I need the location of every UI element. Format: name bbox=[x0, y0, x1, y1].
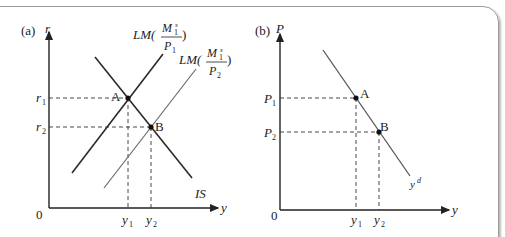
r2-tick-label: r 2 bbox=[36, 119, 46, 136]
svg-text:y: y bbox=[144, 212, 152, 227]
y-axis-label-a: y bbox=[219, 200, 227, 215]
svg-text:P: P bbox=[163, 39, 172, 53]
panel-b: (b) P 0 y A B y d P 1 P 2 y 1 y bbox=[255, 21, 458, 229]
point-a-dot-b bbox=[353, 95, 358, 100]
point-a-dot bbox=[125, 95, 130, 100]
panel-b-label: (b) bbox=[255, 23, 270, 38]
r-axis-label: r bbox=[45, 21, 51, 36]
p2-tick-label: P 2 bbox=[263, 125, 276, 142]
svg-text:2: 2 bbox=[153, 220, 157, 229]
svg-text:1: 1 bbox=[272, 99, 276, 108]
y1-tick-label-b: y 1 bbox=[349, 212, 362, 229]
svg-text:d: d bbox=[417, 176, 422, 185]
r1-tick-label: r 1 bbox=[36, 90, 46, 107]
is-label: IS bbox=[194, 186, 206, 201]
origin-label-b: 0 bbox=[271, 208, 278, 223]
svg-text:y: y bbox=[120, 212, 128, 227]
svg-text:P: P bbox=[263, 91, 272, 106]
panel-a-label: (a) bbox=[21, 23, 35, 38]
aggregate-demand-curve bbox=[323, 50, 410, 176]
point-b-label-b: B bbox=[380, 119, 389, 134]
origin-label-a: 0 bbox=[36, 207, 43, 222]
y2-tick-label-b: y 2 bbox=[372, 212, 385, 229]
p1-tick-label: P 1 bbox=[263, 91, 276, 108]
svg-text:2: 2 bbox=[217, 71, 221, 80]
svg-text:2: 2 bbox=[272, 133, 276, 142]
panel-a: (a) r 0 y A B IS LM( M s 1 P 1 ) bbox=[21, 21, 231, 229]
p-axis-label: P bbox=[275, 21, 284, 36]
lm2-label: LM( M s 1 P 2 ) bbox=[178, 46, 231, 80]
svg-text:M: M bbox=[206, 46, 218, 60]
svg-text:): ) bbox=[227, 52, 231, 67]
svg-text:1: 1 bbox=[129, 220, 133, 229]
svg-text:y: y bbox=[372, 212, 380, 227]
yd-label: y d bbox=[409, 176, 422, 190]
y1-tick-label-a: y 1 bbox=[120, 212, 133, 229]
svg-text:P: P bbox=[208, 64, 217, 78]
svg-text:1: 1 bbox=[42, 98, 46, 107]
lm1-curve bbox=[72, 54, 163, 173]
point-a-label: A bbox=[111, 89, 121, 104]
svg-text:y: y bbox=[409, 178, 415, 190]
svg-text:P: P bbox=[263, 125, 272, 140]
svg-text:LM(: LM( bbox=[178, 52, 202, 67]
point-a-label-b: A bbox=[360, 86, 370, 101]
point-b-label: B bbox=[155, 119, 164, 134]
svg-text:2: 2 bbox=[42, 127, 46, 136]
y2-tick-label-a: y 2 bbox=[144, 212, 157, 229]
point-b-dot bbox=[148, 124, 153, 129]
y-axis-label-b: y bbox=[450, 202, 458, 217]
svg-text:): ) bbox=[182, 27, 186, 42]
lm1-label: LM( M s 1 P 1 ) bbox=[132, 21, 186, 55]
svg-text:y: y bbox=[349, 212, 357, 227]
is-curve bbox=[95, 57, 192, 178]
svg-text:LM(: LM( bbox=[132, 27, 156, 42]
svg-text:2: 2 bbox=[381, 220, 385, 229]
svg-text:1: 1 bbox=[358, 220, 362, 229]
svg-text:1: 1 bbox=[219, 53, 223, 62]
svg-text:1: 1 bbox=[174, 28, 178, 37]
svg-text:M: M bbox=[161, 21, 173, 35]
svg-text:1: 1 bbox=[172, 46, 176, 55]
diagram-canvas: (a) r 0 y A B IS LM( M s 1 P 1 ) bbox=[0, 0, 505, 237]
